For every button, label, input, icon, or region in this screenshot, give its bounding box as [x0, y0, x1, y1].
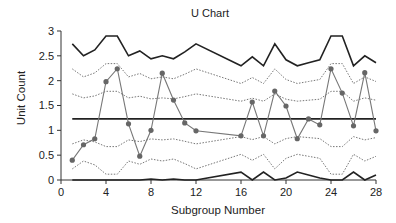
data-point-marker: [272, 88, 277, 93]
data-point-marker: [317, 122, 322, 127]
data-point-marker: [238, 133, 243, 138]
x-tick-label: 28: [370, 186, 382, 198]
y-tick-label: 0.5: [39, 149, 54, 161]
x-tick-label: 24: [325, 186, 337, 198]
y-tick-label: 2: [48, 75, 54, 87]
lower-2sigma-line: [72, 154, 376, 174]
data-point-marker: [92, 136, 97, 141]
y-axis-label: Unit Count: [15, 70, 27, 125]
data-point-marker: [160, 71, 165, 76]
data-point-marker: [306, 116, 311, 121]
y-tick-label: 1.5: [39, 99, 54, 111]
x-tick-label: 4: [103, 186, 109, 198]
data-point-marker: [283, 103, 288, 108]
y-tick-label: 2.5: [39, 50, 54, 62]
ucl-line: [72, 36, 376, 66]
x-tick-label: 20: [280, 186, 292, 198]
data-point-marker: [115, 66, 120, 71]
data-point-marker: [171, 97, 176, 102]
data-point-marker: [373, 128, 378, 133]
data-point-marker: [362, 70, 367, 75]
data-point-marker: [182, 120, 187, 125]
x-tick-label: 8: [148, 186, 154, 198]
upper-1sigma-line: [72, 91, 376, 101]
data-point-marker: [126, 121, 131, 126]
u-chart: U Chart Unit Count Subgroup Number 00.51…: [0, 0, 396, 223]
x-tick-label: 0: [58, 186, 64, 198]
x-axis-label: Subgroup Number: [171, 204, 265, 216]
lower-1sigma-line: [72, 137, 376, 147]
data-point-marker: [340, 90, 345, 95]
data-point-marker: [250, 99, 255, 104]
data-point-marker: [103, 79, 108, 84]
data-point-marker: [295, 136, 300, 141]
data-point-marker: [137, 154, 142, 159]
data-point-marker: [148, 128, 153, 133]
data-point-marker: [81, 142, 86, 147]
control-limits: [72, 36, 376, 180]
x-tick-label: 12: [190, 186, 202, 198]
data-point-marker: [351, 123, 356, 128]
data-point-marker: [261, 133, 266, 138]
data-series: [70, 66, 379, 163]
data-point-marker: [70, 158, 75, 163]
y-tick-label: 0: [48, 174, 54, 186]
y-tick-label: 1: [48, 124, 54, 136]
data-point-marker: [328, 66, 333, 71]
x-tick-label: 16: [235, 186, 247, 198]
chart-title: U Chart: [191, 7, 229, 19]
data-point-marker: [193, 128, 198, 133]
y-tick-label: 3: [48, 25, 54, 37]
